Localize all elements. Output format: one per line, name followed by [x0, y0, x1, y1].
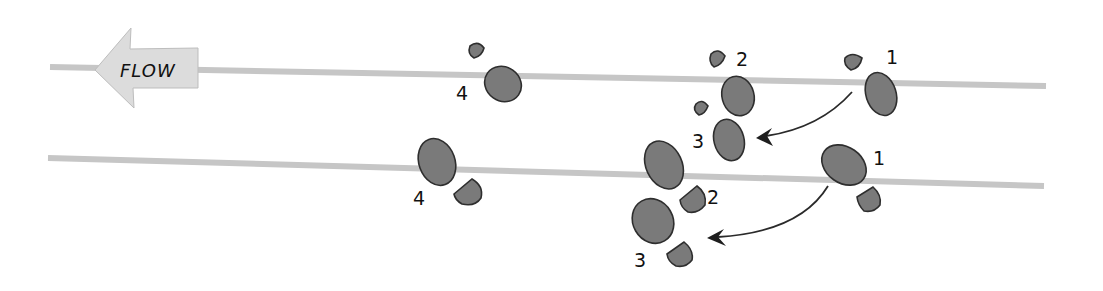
upper-step-2: 2 [710, 48, 759, 119]
step-label-1: 1 [873, 147, 885, 169]
heel-print [454, 179, 482, 205]
step-label-3: 3 [692, 130, 704, 152]
heel-print [680, 186, 705, 212]
foot-print [814, 136, 874, 193]
toe-print [469, 43, 484, 58]
step-label-1: 1 [886, 46, 898, 68]
step-label-4: 4 [456, 82, 468, 104]
toe-print [710, 51, 725, 67]
foot-print [478, 59, 529, 109]
heel-print [667, 242, 692, 266]
lower-line [48, 158, 1044, 186]
footwork-diagram: FLOW 4 3 2 1 4 2 [0, 0, 1103, 291]
foot-print [637, 135, 691, 196]
lower-movement-arrow [707, 186, 828, 246]
foot-print [709, 116, 749, 164]
foot-print [412, 133, 462, 190]
step-label-2: 2 [707, 186, 719, 208]
upper-line [50, 67, 1046, 86]
flow-arrow: FLOW [95, 28, 198, 108]
flow-label: FLOW [120, 60, 176, 81]
step-label-4: 4 [413, 187, 425, 209]
toe-print [845, 55, 862, 71]
heel-print [857, 187, 880, 211]
step-label-2: 2 [736, 48, 748, 70]
foot-print [860, 68, 902, 119]
upper-movement-arrow [756, 92, 852, 146]
lower-step-1: 1 [814, 136, 885, 211]
step-label-3: 3 [634, 249, 646, 271]
foot-print [624, 191, 682, 251]
toe-print [695, 101, 708, 115]
